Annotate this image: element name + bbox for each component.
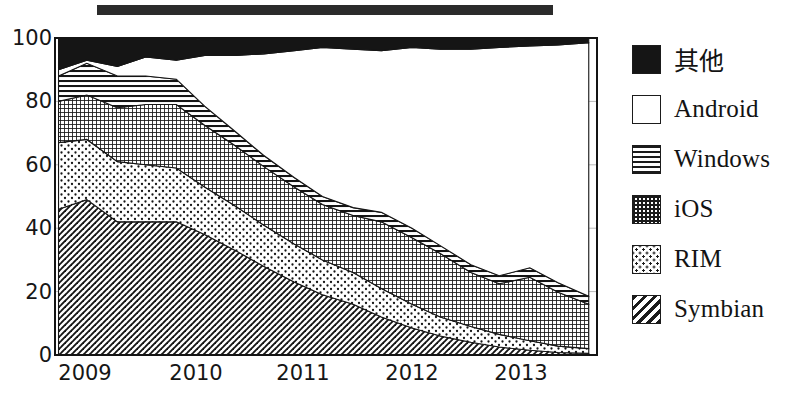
legend-swatch-icon xyxy=(632,95,661,124)
x-tick-2010: 2010 xyxy=(151,363,241,384)
chart-figure: 0 20 40 60 80 100 2009 2010 2011 2012 20… xyxy=(0,0,620,402)
legend-item-diagonal-hatch[interactable]: Symbian xyxy=(632,284,803,334)
legend-item-solid-black[interactable]: 其他 xyxy=(632,34,803,84)
x-tick-2009: 2009 xyxy=(40,363,130,384)
legend-label: Symbian xyxy=(674,295,764,323)
legend-item-dots[interactable]: RIM xyxy=(632,234,803,284)
legend-label: Windows xyxy=(674,145,770,173)
legend-label: iOS xyxy=(674,195,714,223)
legend-swatch-icon xyxy=(632,295,661,324)
x-tick-2011: 2011 xyxy=(258,363,348,384)
legend-swatch-icon xyxy=(632,145,661,174)
legend-item-horizontal-lines[interactable]: Windows xyxy=(632,134,803,184)
legend-swatch-icon xyxy=(632,245,661,274)
x-tick-2012: 2012 xyxy=(367,363,457,384)
legend-item-solid-white[interactable]: Android xyxy=(632,84,803,134)
chart-legend: 其他AndroidWindowsiOSRIMSymbian xyxy=(632,34,803,334)
x-axis: 2009 2010 2011 2012 2013 xyxy=(0,0,620,402)
x-tick-2013: 2013 xyxy=(476,363,566,384)
chart-page: 0 20 40 60 80 100 2009 2010 2011 2012 20… xyxy=(0,0,803,402)
legend-swatch-icon xyxy=(632,195,661,224)
legend-label: 其他 xyxy=(674,41,724,77)
legend-item-crosshatch-grid[interactable]: iOS xyxy=(632,184,803,234)
legend-label: Android xyxy=(674,95,759,123)
legend-label: RIM xyxy=(674,245,722,273)
legend-swatch-icon xyxy=(632,45,661,74)
